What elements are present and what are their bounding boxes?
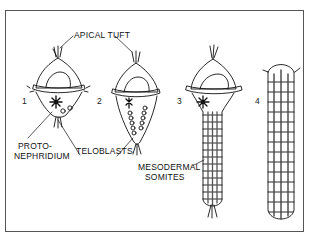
teloblasts-label: TELOBLASTS (76, 146, 133, 156)
larva-development-diagram (0, 0, 310, 239)
larva-stage-1 (27, 46, 90, 128)
larva-stage-2 (112, 51, 160, 155)
stage-number-2: 2 (97, 96, 102, 106)
larva-stage-3 (186, 45, 242, 218)
stage-number-4: 4 (255, 96, 260, 106)
protonephridium-label-line2: NEPHRIDIUM (14, 151, 70, 161)
stage-number-1: 1 (22, 96, 27, 106)
larva-stage-4 (263, 65, 300, 220)
mesodermal-somites-label-line1: MESODERMAL (138, 162, 200, 172)
teloblast-cells (128, 106, 147, 135)
mesodermal-somites-label-line2: SOMITES (145, 172, 185, 182)
apical-tuft-label: APICAL TUFT (74, 30, 130, 40)
segments (268, 70, 294, 219)
protonephridium-label-line1: PROTO- (18, 141, 52, 151)
mesodermal-somites (203, 112, 222, 205)
stage-number-3: 3 (177, 96, 182, 106)
